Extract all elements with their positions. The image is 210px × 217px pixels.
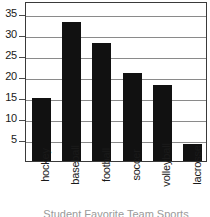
y-axis-tick-label: 10 (5, 113, 17, 124)
y-axis-tick-label: 30 (5, 29, 17, 40)
x-axis-title-label: Student Favorite Team Sports (43, 209, 188, 217)
x-axis-tick-label: soccer (131, 149, 142, 180)
y-axis: 5101520253035 (0, 0, 25, 162)
y-axis-tick-label: 5 (11, 134, 17, 145)
x-axis-tick-label: hockey (40, 148, 51, 182)
y-axis-tick-label: 20 (5, 71, 17, 82)
bar-chart-figure: 5101520253035 hockeybaseballfootballsocc… (0, 0, 210, 217)
x-axis-tick-label: football (101, 148, 112, 182)
x-axis-tick-label: volleyball (161, 143, 172, 186)
y-axis-tick-label: 35 (5, 8, 17, 19)
bars-group (26, 3, 206, 161)
x-axis-title: Student Favorite Team Sports (25, 209, 207, 217)
y-axis-tick-label: 25 (5, 50, 17, 61)
plot-area (25, 2, 207, 162)
bar (123, 73, 142, 161)
bar (92, 43, 111, 161)
bar (62, 22, 81, 161)
y-axis-tick-label: 15 (5, 92, 17, 103)
x-axis-tick-label: baseball (70, 145, 81, 184)
x-axis-tick-label: lacrosse (192, 145, 203, 184)
